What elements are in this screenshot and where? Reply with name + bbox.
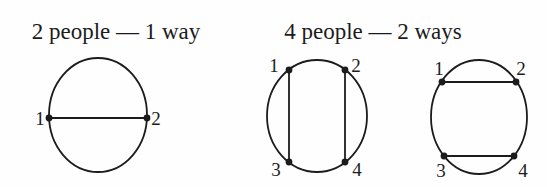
- person-label: 2: [516, 58, 526, 79]
- diagram-layer: 1212341234: [35, 55, 528, 181]
- person-dot: [513, 79, 520, 86]
- person-label: 3: [271, 159, 281, 180]
- person-label: 1: [269, 55, 279, 76]
- person-dot: [286, 67, 293, 74]
- person-label: 2: [351, 55, 361, 76]
- person-dot: [144, 115, 151, 122]
- person-dot: [441, 153, 448, 160]
- person-label: 3: [436, 160, 446, 181]
- person-dot: [46, 115, 53, 122]
- person-label: 1: [434, 58, 444, 79]
- person-label: 4: [352, 159, 362, 180]
- person-dot: [439, 79, 446, 86]
- panel-title-4-people: 4 people — 2 ways: [284, 19, 462, 44]
- person-dot: [342, 159, 349, 166]
- person-label: 4: [518, 160, 528, 181]
- people-circle-outline: [267, 60, 367, 172]
- handshake-ways-diagram: 2 people — 1 way 4 people — 2 ways 12123…: [0, 0, 547, 187]
- people-circle-outline: [49, 58, 147, 172]
- person-dot: [342, 67, 349, 74]
- person-dot: [511, 153, 518, 160]
- handshake-figure: 2 people — 1 way 4 people — 2 ways 12123…: [0, 0, 547, 187]
- person-label: 1: [35, 108, 45, 129]
- person-label: 2: [151, 108, 161, 129]
- person-dot: [286, 159, 293, 166]
- panel-title-2-people: 2 people — 1 way: [32, 19, 201, 44]
